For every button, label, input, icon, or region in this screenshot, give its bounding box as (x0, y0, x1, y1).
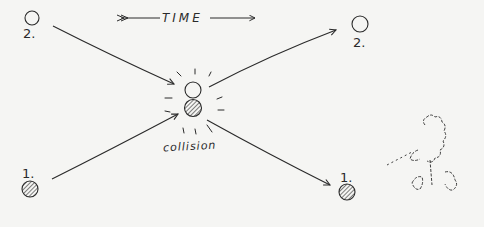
particle-1-after (339, 184, 355, 200)
particle-2-after (352, 16, 368, 32)
collision-label: collision (163, 140, 217, 154)
time-label: TIME (162, 12, 203, 24)
label-particle-1-before: 1. (22, 167, 34, 180)
tree-sketch (387, 115, 457, 190)
diagram-canvas: 2. 1. 2. 1. TIME collision (0, 0, 484, 227)
label-particle-1-after: 1. (340, 171, 352, 184)
label-particle-2-after: 2. (353, 36, 365, 49)
particle-2-before (25, 11, 39, 25)
label-particle-2-before: 2. (23, 27, 35, 40)
collision-diagram-drawing (0, 0, 484, 227)
particle-1-before (22, 181, 38, 197)
